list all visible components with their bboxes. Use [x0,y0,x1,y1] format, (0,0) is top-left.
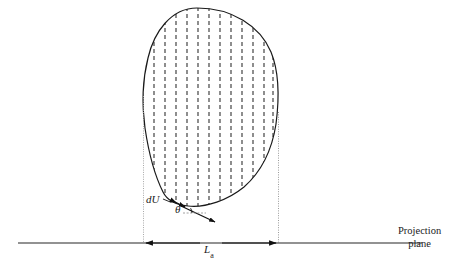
la-subscript: a [210,251,214,260]
du-label-text: dU [146,193,159,205]
diagram-canvas [0,0,460,270]
theta-label-text: θ [175,203,180,215]
du-label: dU [146,193,159,205]
hatch-lines-group [154,0,273,215]
projection-plane-label-line2: plane [398,238,441,251]
normal-vector-arrow [181,206,215,222]
la-dimension-label: La [204,243,214,259]
theta-label: θ [175,203,180,215]
projection-plane-label-line1: Projection [398,225,441,238]
body-outline [143,8,278,206]
figure-diagram-projected-area: dU θ La Projection plane [0,0,460,270]
projection-plane-label: Projection plane [398,225,441,251]
